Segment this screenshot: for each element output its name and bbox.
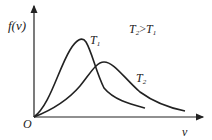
x-axis-label: v [182,125,188,139]
curve-t2-label: T2 [136,71,147,86]
curve-t1 [34,39,145,117]
curve-t2 [34,62,185,117]
temperature-relation: T2>T1 [129,22,156,37]
curve-t1-label: T1 [90,33,100,48]
y-axis-label: f(v) [8,18,26,33]
distribution-diagram: f(v) v O T1 T2 T2>T1 [0,0,212,140]
origin-label: O [23,117,32,131]
